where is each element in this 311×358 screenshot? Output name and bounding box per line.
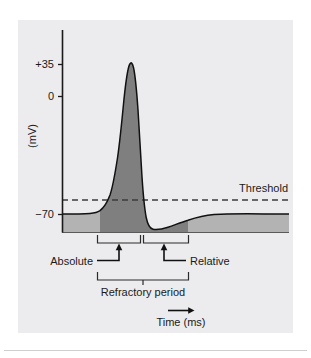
y-tick-label-35: +35 <box>35 58 54 70</box>
action-potential-figure: +35 0 −70 (mV) Threshold Absolute Relati… <box>0 0 311 358</box>
y-tick-label-0: 0 <box>48 90 54 102</box>
refractory-period-label: Refractory period <box>101 286 185 298</box>
y-tick-label-minus70: −70 <box>35 208 54 220</box>
y-axis-title: (mV) <box>26 124 38 148</box>
action-potential-chart: +35 0 −70 (mV) Threshold Absolute Relati… <box>0 0 311 358</box>
absolute-refractory-label: Absolute <box>50 255 93 267</box>
x-axis-label: Time (ms) <box>156 316 205 328</box>
threshold-label: Threshold <box>239 182 288 194</box>
relative-refractory-label: Relative <box>190 255 230 267</box>
